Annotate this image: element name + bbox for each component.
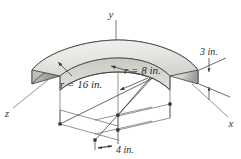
dimension-base-width (95, 131, 118, 150)
x-axis-label: x (228, 117, 234, 129)
label-inner-radius: r = 8 in. (124, 64, 161, 76)
isometric-solid-diagram: r = 16 in. r = 8 in. 3 in. 4 in. y x z (0, 0, 241, 159)
label-thickness: 3 in. (199, 46, 218, 57)
base-edge-upper-left (60, 110, 118, 126)
label-base-width: 4 in. (116, 144, 134, 155)
figure-container: r = 16 in. r = 8 in. 3 in. 4 in. y x z (0, 0, 241, 159)
leader-inner-4 (96, 78, 152, 139)
base-edge-right (118, 118, 170, 130)
dim-line-base-right (98, 146, 112, 148)
label-outer-radius: r = 16 in. (60, 78, 102, 90)
vertex-marker (168, 102, 171, 105)
vertex-markers (58, 102, 171, 141)
base-rail-lower (95, 121, 152, 134)
solid-body (32, 40, 198, 90)
y-axis-label: y (108, 8, 114, 20)
z-axis-label: z (4, 107, 10, 119)
dimension-thickness (199, 58, 230, 100)
z-axis-line (13, 80, 48, 108)
base-edge-left (60, 124, 118, 140)
ext-line-thickness-top (199, 58, 226, 70)
leader-inner-2 (120, 78, 148, 90)
